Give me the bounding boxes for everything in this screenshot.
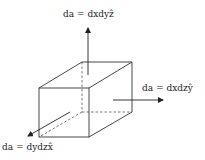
- hidden-edges: [39, 62, 132, 137]
- visible-edges: [39, 62, 132, 137]
- label-right: da = dxdzŷ: [142, 84, 193, 93]
- label-top: da = dxdyẑ: [63, 10, 114, 19]
- cube-diagram: [0, 0, 205, 160]
- arrow-x: [28, 112, 70, 136]
- label-left: da = dydzx̂: [2, 143, 53, 152]
